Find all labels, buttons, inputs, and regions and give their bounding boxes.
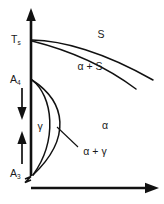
temperature-axis [25, 8, 36, 183]
phase-diagram-figure: Ts A4 A3 S α + S α γ α + γ [0, 0, 164, 204]
gamma-range-arrow-down-head-icon [17, 107, 26, 120]
region-label-alpha-plus-s: α + S [77, 60, 102, 72]
region-label-gamma: γ [37, 120, 43, 132]
label-a4: A4 [10, 73, 21, 86]
gamma-range-arrow-down [17, 88, 26, 120]
axis-break-icon [25, 177, 31, 183]
label-a4-subscript: 4 [17, 79, 21, 86]
label-a4-text: A [10, 73, 17, 85]
region-label-alpha-plus-gamma: α + γ [83, 145, 107, 157]
gamma-loop-inner-curve [32, 80, 60, 175]
region-label-alpha: α [102, 119, 108, 131]
label-a3-text: A [10, 167, 17, 179]
label-ts: Ts [11, 33, 21, 46]
phase-diagram-canvas: Ts A4 A3 S α + S α γ α + γ [0, 0, 164, 204]
temperature-axis-arrow-icon [26, 8, 36, 21]
gamma-range-arrow-up [17, 131, 26, 164]
label-a3-subscript: 3 [17, 173, 21, 180]
label-ts-subscript: s [17, 39, 21, 46]
gamma-range-arrow-up-head-icon [17, 131, 26, 144]
region-label-s: S [97, 28, 104, 40]
label-a3: A3 [10, 167, 21, 180]
alpha-plus-gamma-leader-line [57, 127, 78, 147]
composition-axis-arrow-icon [145, 183, 159, 194]
composition-axis [31, 183, 159, 194]
